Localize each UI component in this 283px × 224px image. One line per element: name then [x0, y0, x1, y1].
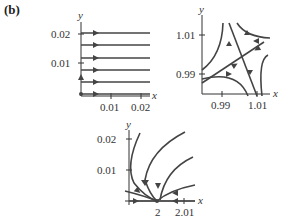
y-tick-0.01: 0.01 [51, 57, 70, 69]
x-axis-label: x [151, 89, 157, 101]
svg-text:x: x [272, 87, 278, 99]
phase-plane-3: y x 0.02 0.01 2 2.01 [97, 118, 203, 218]
svg-text:0.02: 0.02 [97, 133, 116, 145]
svg-text:2.01: 2.01 [175, 206, 194, 218]
svg-text:y: y [198, 3, 204, 15]
x-tick-0.01: 0.01 [100, 101, 119, 113]
svg-text:y: y [125, 118, 131, 130]
svg-text:2: 2 [155, 206, 161, 218]
y-tick-0.02: 0.02 [51, 28, 70, 40]
y-axis-label: y [77, 9, 83, 21]
svg-text:x: x [197, 194, 203, 206]
svg-text:1.01: 1.01 [176, 29, 195, 41]
phase-plane-1: y x 0.02 0.01 0.01 0.02 [51, 9, 157, 113]
svg-text:1.01: 1.01 [248, 99, 267, 111]
phase-plane-2: y x 1.01 0.99 0.99 1.01 [176, 3, 278, 111]
x-tick-0.02: 0.02 [131, 101, 150, 113]
svg-text:0.99: 0.99 [176, 68, 196, 80]
svg-text:0.01: 0.01 [97, 164, 116, 176]
svg-text:0.99: 0.99 [211, 99, 231, 111]
figure: y x 0.02 0.01 0.01 0.02 y x 1.01 0.99 [0, 0, 283, 224]
